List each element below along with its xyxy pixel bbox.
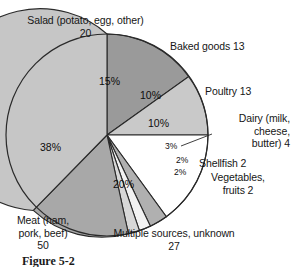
label-salad: Salad (potato, egg, other) 20 [8,14,163,39]
percent-label-vegetables: 2% [174,167,186,178]
label-dairy-line2: cheese, [186,125,290,138]
percent-label-baked-goods: 10% [140,90,161,101]
label-poultry: Poultry 13 [205,85,251,98]
label-multiple-sources-value: 27 [108,240,240,253]
percent-label-multiple-sources: 20% [113,179,134,190]
label-vegetables-line2: fruits 2 [186,184,290,197]
label-meat-value: 50 [4,239,82,252]
label-vegetables: Vegetables, fruits 2 [186,171,290,196]
label-salad-text: Salad (potato, egg, other) [8,14,163,27]
percent-label-salad: 15% [99,76,120,87]
percent-label-poultry: 10% [148,118,169,129]
label-dairy-line3: butter) 4 [186,137,290,150]
figure-container: Salad (potato, egg, other) 20 Baked good… [0,0,292,268]
label-baked-goods: Baked goods 13 [170,40,245,53]
label-salad-value: 20 [8,27,163,40]
label-vegetables-line1: Vegetables, [186,171,290,184]
label-meat: Meat (ham, pork, beef) 50 [4,214,82,252]
label-meat-line2: pork, beef) [4,227,82,240]
label-multiple-sources-text: Multiple sources, unknown [108,227,240,240]
percent-label-meat: 38% [40,142,61,153]
percent-label-shellfish: 2% [176,155,188,166]
figure-caption: Figure 5-2 [22,254,75,267]
label-multiple-sources: Multiple sources, unknown 27 [108,227,240,252]
label-meat-line1: Meat (ham, [4,214,82,227]
label-shellfish: Shellfish 2 [199,157,246,170]
label-dairy-line1: Dairy (milk, [186,112,290,125]
percent-label-dairy: 3% [165,141,177,152]
label-dairy: Dairy (milk, cheese, butter) 4 [186,112,290,150]
